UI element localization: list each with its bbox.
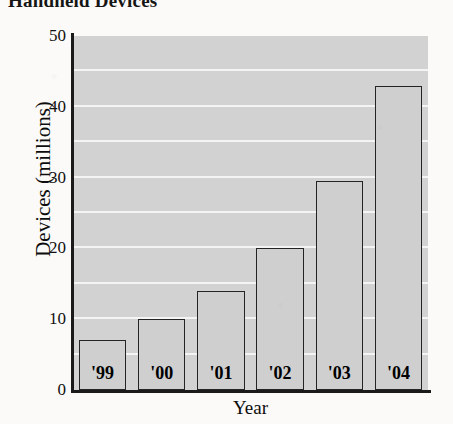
bar-category-label: '03 [317,364,362,383]
bar-category-label: '00 [139,364,184,383]
bar: '01 [197,291,244,390]
y-axis-tick-label: 0 [26,381,66,398]
bar: '02 [256,248,303,390]
y-axis-title: Devices (millions) [32,59,54,299]
page-title: Handheld Devices [0,0,453,11]
x-axis-line [71,390,431,393]
chart-screenshot: Handheld Devices 50403020100 Devices (mi… [0,0,453,424]
x-axis-title: Year [73,398,428,418]
bar: '04 [375,86,422,390]
bar: '03 [316,181,363,390]
y-axis-tick-label: 50 [26,27,66,44]
bar-category-label: '04 [376,364,421,383]
bar-category-label: '02 [257,364,302,383]
bar: '00 [138,319,185,390]
bar-category-label: '01 [198,364,243,383]
y-axis-line [71,33,74,392]
bar-category-label: '99 [80,364,125,383]
y-axis-tick-label: 10 [26,310,66,327]
bar: '99 [79,340,126,390]
bar-series: '99'00'01'02'03'04 [73,36,428,390]
